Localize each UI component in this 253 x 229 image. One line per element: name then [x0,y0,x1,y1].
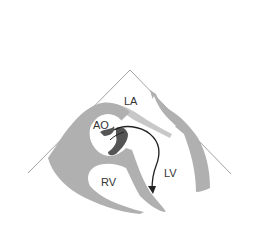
label-ao: AO [93,119,109,131]
label-lv: LV [164,167,177,179]
myocardium-tissue [48,90,210,214]
echo-diagram: LA AO RV LV [0,0,253,229]
label-la: LA [124,95,138,107]
label-rv: RV [101,176,117,188]
